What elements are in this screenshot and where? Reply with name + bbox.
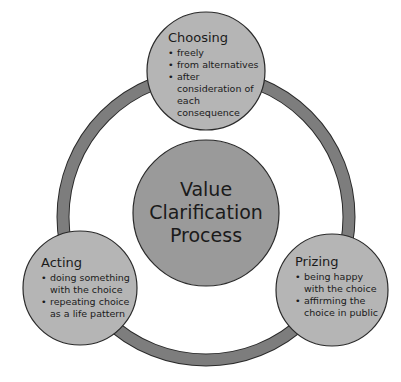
choosing-bullet: freely	[168, 47, 268, 59]
center-label-line-2: Clarification	[136, 201, 276, 224]
acting-bullet: repeating choice as a life pattern	[41, 296, 131, 320]
prizing-bullet: being happy with the choice	[295, 271, 380, 295]
center-label-line-1: Value	[136, 178, 276, 201]
choosing-bullets: freely from alternatives after considera…	[168, 47, 268, 119]
prizing-node: Prizing being happy with the choice affi…	[295, 254, 380, 319]
choosing-node: Choosing freely from alternatives after …	[168, 30, 268, 119]
acting-title: Acting	[41, 255, 131, 270]
prizing-bullets: being happy with the choice affirming th…	[295, 271, 380, 319]
choosing-bullet: after consideration of each consequence	[168, 71, 261, 119]
prizing-title: Prizing	[295, 254, 380, 269]
acting-bullet: doing something with the choice	[41, 272, 131, 296]
center-label-line-3: Process	[136, 224, 276, 247]
acting-node: Acting doing something with the choice r…	[41, 255, 131, 320]
choosing-title: Choosing	[168, 30, 268, 45]
prizing-bullet: affirming the choice in public	[295, 295, 380, 319]
center-label: Value Clarification Process	[136, 178, 276, 247]
acting-bullets: doing something with the choice repeatin…	[41, 272, 131, 320]
choosing-bullet: from alternatives	[168, 59, 268, 71]
